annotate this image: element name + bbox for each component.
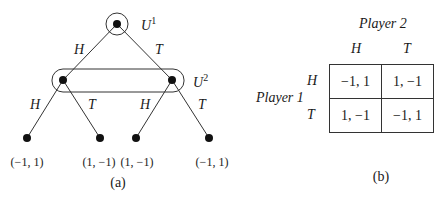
caption-a: (a) [110, 176, 126, 190]
matrix-row: 1, −1 −1, 1 [330, 99, 434, 133]
edge-label-n1-t: T [88, 98, 96, 112]
col-header-t: T [403, 42, 411, 56]
root-node [113, 20, 121, 28]
leaf-node [132, 134, 140, 142]
row-header-t: T [307, 108, 315, 122]
matrix-cell: 1, −1 [382, 65, 434, 99]
leaf-node [96, 134, 104, 142]
info-set-u2-label: U2 [193, 73, 208, 90]
payoff-label: (1, −1) [121, 156, 154, 168]
edge-label-root-h: H [74, 43, 84, 57]
payoff-label: (1, −1) [83, 156, 116, 168]
matrix-row: −1, 1 1, −1 [330, 65, 434, 99]
caption-b: (b) [373, 170, 389, 184]
edge-label-n2-t: T [198, 98, 206, 112]
col-header-h: H [351, 42, 361, 56]
decision-node-right [168, 76, 176, 84]
decision-node-left [59, 76, 67, 84]
matrix-cell: −1, 1 [330, 65, 382, 99]
matrix-cell: 1, −1 [330, 99, 382, 133]
leaf-node [23, 134, 31, 142]
matrix-cell: −1, 1 [382, 99, 434, 133]
row-header-h: H [307, 74, 317, 88]
edge-root-h [63, 24, 117, 80]
payoff-matrix: −1, 1 1, −1 1, −1 −1, 1 [329, 64, 434, 133]
edge-label-n1-h: H [30, 98, 40, 112]
payoff-label: (−1, 1) [11, 156, 44, 168]
player1-label: Player 1 [256, 91, 304, 105]
edge-label-root-t: T [155, 43, 163, 57]
info-set-u1-label: U1 [141, 16, 156, 33]
edge-label-n2-h: H [140, 98, 150, 112]
player2-label: Player 2 [359, 17, 407, 31]
leaf-node [205, 134, 213, 142]
payoff-label: (−1, 1) [196, 156, 229, 168]
